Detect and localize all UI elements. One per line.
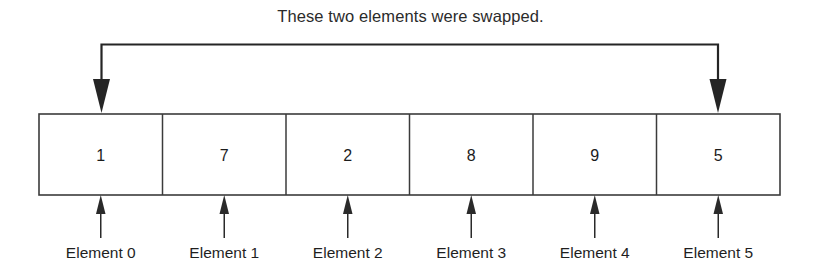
element-label-1: Element 1 <box>189 244 259 261</box>
element-label-5: Element 5 <box>683 244 753 261</box>
cell-value-0: 1 <box>96 147 105 164</box>
cell-value-3: 8 <box>467 147 476 164</box>
diagram-canvas: These two elements were swapped. 1 7 2 8… <box>0 0 821 273</box>
element-tick-1 <box>220 195 230 238</box>
swap-arrowhead-left-icon <box>93 79 110 113</box>
element-tick-4 <box>590 195 600 238</box>
element-pointer-ticks <box>96 195 723 238</box>
swap-arrowhead-right-icon <box>710 79 727 113</box>
element-label-4: Element 4 <box>560 244 630 261</box>
element-tick-5 <box>714 195 724 238</box>
element-labels: Element 0 Element 1 Element 2 Element 3 … <box>66 244 753 261</box>
element-label-3: Element 3 <box>436 244 506 261</box>
swap-connector-path <box>102 45 719 82</box>
cell-value-5: 5 <box>714 147 723 164</box>
swap-caption: These two elements were swapped. <box>277 7 543 25</box>
element-tick-2 <box>343 195 353 238</box>
cell-value-4: 9 <box>590 147 599 164</box>
array-swap-diagram: These two elements were swapped. 1 7 2 8… <box>0 0 821 273</box>
element-label-0: Element 0 <box>66 244 136 261</box>
cell-value-2: 2 <box>343 147 352 164</box>
element-label-2: Element 2 <box>313 244 383 261</box>
cell-value-1: 7 <box>220 147 229 164</box>
swap-connector-group <box>93 45 727 114</box>
element-tick-0 <box>96 195 106 238</box>
element-tick-3 <box>467 195 477 238</box>
